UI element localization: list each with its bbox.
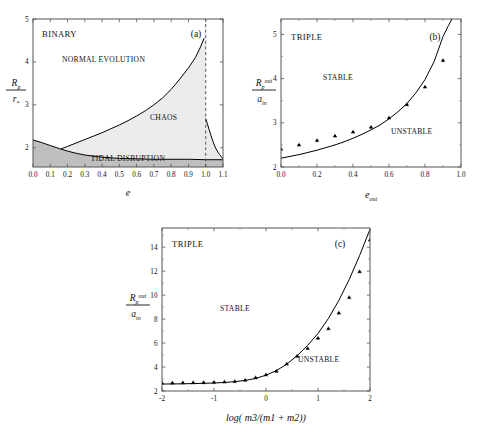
x-tick-label: 1.0: [457, 171, 466, 179]
panel-c-svg: -2-10122468101214 TRIPLE (c) STABLE UNST…: [110, 215, 493, 436]
x-tick-label: 1: [316, 395, 320, 403]
y-tick-label: 10: [150, 292, 158, 300]
x-tick-label: 0.4: [349, 171, 358, 179]
panel-c-ylabel-denominator: ain: [131, 309, 140, 321]
y-tick-label: 12: [150, 268, 158, 276]
panel-b-ylabel-numerator: Rpout: [255, 78, 273, 90]
x-tick-label: 0.3: [80, 171, 89, 179]
panel-b-xaxis-title: eout: [365, 189, 377, 202]
panel-b-system-label: TRIPLE: [291, 32, 323, 42]
y-tick-label: 14: [150, 244, 158, 252]
region-label-unstable: UNSTABLE: [298, 355, 340, 364]
x-tick-label: 0.5: [115, 171, 124, 179]
panel-c-axes-frame: [162, 228, 370, 391]
panel-c-ticks: [162, 228, 370, 391]
x-tick-label: 0.1: [46, 171, 55, 179]
x-tick-label: 0.4: [98, 171, 107, 179]
x-tick-label: 2: [368, 395, 372, 403]
x-tick-label: 0.6: [385, 171, 394, 179]
chaos-region-shading: [61, 19, 223, 160]
y-tick-label: 2: [25, 144, 29, 152]
panel-a: 0.00.10.20.30.40.50.60.70.80.91.01.12345…: [0, 0, 245, 215]
panel-a-svg: 0.00.10.20.30.40.50.60.70.80.91.01.12345…: [0, 0, 245, 215]
x-tick-label: 0.7: [149, 171, 158, 179]
x-tick-label: 0.0: [29, 171, 38, 179]
region-label-chaos: CHAOS: [150, 113, 177, 122]
x-tick-label: -2: [159, 395, 165, 403]
y-tick-label: 4: [273, 75, 277, 83]
panel-a-xaxis-title: e: [126, 187, 131, 198]
x-tick-label: 0.6: [132, 171, 141, 179]
panel-a-system-label: BINARY: [42, 29, 77, 39]
x-tick-label: 1.0: [201, 171, 210, 179]
panel-b: 0.00.20.40.60.81.02345 TRIPLE (b) STABLE…: [245, 0, 493, 215]
panel-c: -2-10122468101214 TRIPLE (c) STABLE UNST…: [110, 215, 493, 436]
x-tick-label: 0.8: [167, 171, 176, 179]
y-tick-label: 3: [25, 101, 29, 109]
y-tick-label: 5: [273, 31, 277, 39]
region-label-unstable: UNSTABLE: [391, 127, 433, 136]
y-tick-label: 2: [273, 164, 277, 172]
region-label-normal-evolution: NORMAL EVOLUTION: [62, 55, 145, 64]
x-tick-label: 0.0: [277, 171, 286, 179]
panel-b-svg: 0.00.20.40.60.81.02345 TRIPLE (b) STABLE…: [245, 0, 493, 215]
x-tick-label: -1: [211, 395, 217, 403]
x-tick-label: 0.2: [313, 171, 322, 179]
x-tick-label: 0.2: [63, 171, 72, 179]
panel-a-tag: (a): [191, 29, 202, 40]
region-label-stable: STABLE: [220, 304, 250, 313]
y-tick-label: 5: [25, 16, 29, 24]
panel-a-regions: [33, 19, 223, 167]
panel-b-tag: (b): [429, 32, 440, 43]
y-tick-label: 8: [154, 316, 158, 324]
panel-c-system-label: TRIPLE: [172, 239, 204, 249]
x-tick-label: 1.1: [219, 171, 228, 179]
panel-c-ylabel-numerator: Rpout: [129, 293, 147, 305]
y-tick-label: 6: [154, 340, 158, 348]
panel-c-tag: (c): [335, 239, 346, 250]
panel-b-ylabel-denominator: ain: [257, 94, 266, 106]
x-tick-label: 0.8: [421, 171, 430, 179]
y-tick-label: 2: [154, 388, 158, 396]
x-tick-label: 0: [264, 395, 268, 403]
panel-a-ylabel-denominator: r*: [13, 94, 20, 106]
y-tick-label: 3: [273, 119, 277, 127]
figure-container: 0.00.10.20.30.40.50.60.70.80.91.01.12345…: [0, 0, 493, 436]
panel-a-yaxis-title: Rp r*: [6, 78, 26, 106]
panel-c-yaxis-title: Rpout ain: [126, 293, 150, 321]
region-label-stable: STABLE: [323, 73, 353, 82]
y-tick-label: 4: [154, 364, 158, 372]
x-tick-label: 0.9: [184, 171, 193, 179]
y-tick-label: 4: [25, 58, 29, 66]
region-label-tidal-disruption: TIDAL DISRUPTION: [91, 154, 166, 163]
numerical-data-points: [160, 238, 372, 385]
panel-c-tick-labels: -2-10122468101214: [150, 244, 372, 403]
numerical-data-points: [279, 58, 445, 151]
panel-c-xaxis-title: log( m3/(m1 + m2)): [226, 412, 306, 424]
panel-a-ylabel-numerator: Rp: [11, 78, 21, 90]
panel-c-plot: [160, 229, 372, 385]
